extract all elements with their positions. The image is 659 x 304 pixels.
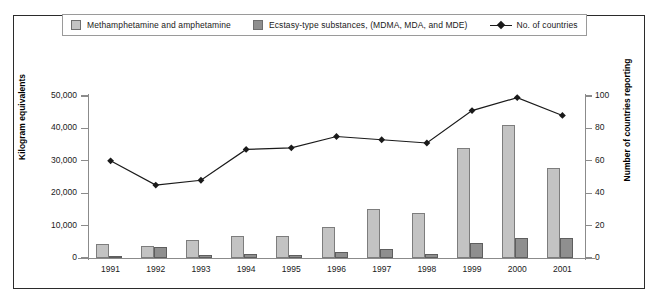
y-axis-right-tick: [585, 257, 592, 258]
bar-ecstasy: [199, 255, 212, 258]
y-axis-left-tick-label: 50,000: [31, 90, 77, 100]
y-axis-right-tick-label: 0: [595, 252, 621, 262]
y-axis-left-line: [88, 94, 89, 260]
x-axis-tick-label: 1995: [268, 264, 314, 274]
bar-methamphetamine: [322, 227, 335, 258]
y-axis-right-tick: [585, 160, 592, 161]
bar-ecstasy: [560, 238, 573, 258]
bar-ecstasy: [470, 243, 483, 258]
x-axis-tick-label: 1992: [133, 264, 179, 274]
y-axis-left-tick: [81, 128, 88, 129]
y-axis-left-tick: [81, 257, 88, 258]
y-axis-left-tick-label: 0: [31, 252, 77, 262]
x-axis-tick-label: 1998: [404, 264, 450, 274]
y-axis-left-tick-label: 30,000: [31, 155, 77, 165]
bar-ecstasy: [515, 238, 528, 258]
legend-swatch-methamphetamine: [71, 20, 81, 30]
legend-label-methamphetamine: Methamphetamine and amphetamine: [87, 20, 231, 30]
legend-swatch-ecstasy: [253, 20, 263, 30]
y-axis-right-tick: [585, 193, 592, 194]
legend-item-ecstasy: Ecstasy-type substances, (MDMA, MDA, and…: [253, 20, 468, 30]
bar-ecstasy: [244, 254, 257, 258]
y-axis-left-tick-label: 10,000: [31, 220, 77, 230]
y-axis-right-tick-label: 100: [595, 90, 621, 100]
bar-ecstasy: [109, 256, 122, 258]
bar-ecstasy: [425, 254, 438, 258]
y-axis-right-tick-label: 40: [595, 187, 621, 197]
y-axis-right-line: [585, 94, 586, 260]
bar-ecstasy: [154, 247, 167, 258]
bar-methamphetamine: [502, 125, 515, 258]
y-axis-left-tick-label: 40,000: [31, 122, 77, 132]
bar-methamphetamine: [457, 148, 470, 258]
x-axis-tick-label: 1996: [314, 264, 360, 274]
legend-marker-line-diamond-icon: [490, 20, 512, 30]
y-axis-right-tick-label: 20: [595, 220, 621, 230]
bar-ecstasy: [289, 255, 302, 258]
legend-label-ecstasy: Ecstasy-type substances, (MDMA, MDA, and…: [269, 20, 468, 30]
x-axis-tick-label: 1997: [359, 264, 405, 274]
legend-item-no-of-countries: No. of countries: [490, 20, 578, 30]
bar-ecstasy: [335, 252, 348, 258]
bar-methamphetamine: [231, 236, 244, 258]
y-axis-right-title: Number of countries reporting: [622, 55, 632, 185]
chart-legend: Methamphetamine and amphetamine Ecstasy-…: [62, 14, 587, 36]
y-axis-right-tick: [585, 128, 592, 129]
x-axis-tick-label: 2001: [539, 264, 585, 274]
bar-methamphetamine: [96, 244, 109, 258]
legend-item-methamphetamine: Methamphetamine and amphetamine: [71, 20, 231, 30]
bar-methamphetamine: [367, 209, 380, 258]
y-axis-right-tick-label: 60: [595, 155, 621, 165]
x-axis-tick-label: 1999: [449, 264, 495, 274]
x-axis-tick-label: 1993: [178, 264, 224, 274]
y-axis-right-tick: [585, 95, 592, 96]
bar-methamphetamine: [276, 236, 289, 258]
bar-methamphetamine: [141, 246, 154, 258]
bar-methamphetamine: [412, 213, 425, 258]
bar-methamphetamine: [547, 168, 560, 258]
chart-figure: Methamphetamine and amphetamine Ecstasy-…: [0, 0, 659, 304]
y-axis-right-tick: [585, 225, 592, 226]
x-axis-tick-label: 1994: [223, 264, 269, 274]
y-axis-left-title: Kilogram equivalents: [17, 57, 27, 177]
x-axis-tick-label: 1991: [88, 264, 134, 274]
y-axis-left-tick: [81, 225, 88, 226]
y-axis-left-tick: [81, 193, 88, 194]
y-axis-left-tick-label: 20,000: [31, 187, 77, 197]
y-axis-left-tick: [81, 95, 88, 96]
bar-methamphetamine: [186, 240, 199, 258]
y-axis-right-tick-label: 80: [595, 122, 621, 132]
bar-ecstasy: [380, 249, 393, 258]
x-axis-tick-label: 2000: [494, 264, 540, 274]
legend-label-no-of-countries: No. of countries: [517, 20, 578, 30]
y-axis-left-tick: [81, 160, 88, 161]
